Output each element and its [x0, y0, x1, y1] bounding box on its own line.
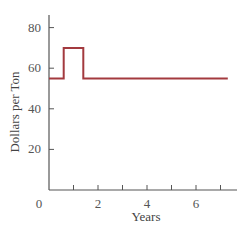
y-tick-label: 80: [28, 20, 41, 35]
x-tick-label: 2: [95, 196, 102, 211]
x-tick-label: 0: [36, 196, 43, 211]
y-axis-label: Dollars per Ton: [7, 71, 22, 153]
x-axis-label: Years: [131, 209, 160, 224]
chart: 204060800246 Years Dollars per Ton: [0, 0, 250, 236]
y-tick-label: 20: [28, 141, 41, 156]
y-tick-label: 60: [28, 60, 41, 75]
series-line: [49, 48, 228, 79]
axes: 204060800246: [28, 15, 237, 211]
price-step-line: [49, 48, 228, 79]
y-tick-label: 40: [28, 101, 41, 116]
x-tick-label: 6: [193, 196, 200, 211]
